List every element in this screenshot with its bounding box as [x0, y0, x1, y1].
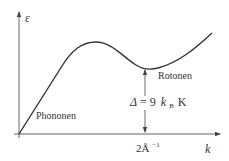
gap-equals: = 9: [140, 95, 156, 109]
dispersion-diagram: ε k Δ = 9 k B K Phononen Rotonen 2Å −1: [0, 0, 229, 161]
x-axis-label: k: [205, 142, 211, 156]
x-tick-value: 2Å: [136, 142, 150, 154]
gap-unit: K: [178, 95, 187, 109]
gap-label: Δ = 9 k B K: [129, 95, 187, 111]
phonons-label: Phononen: [36, 110, 76, 121]
y-axis-label: ε: [25, 11, 30, 25]
rotons-label: Rotonen: [158, 70, 192, 81]
x-tick-exponent: −1: [152, 141, 160, 149]
x-tick-label: 2Å −1: [136, 141, 160, 154]
gap-delta: Δ: [129, 95, 137, 109]
gap-kb: k: [161, 95, 167, 109]
gap-kb-sub: B: [169, 102, 174, 110]
